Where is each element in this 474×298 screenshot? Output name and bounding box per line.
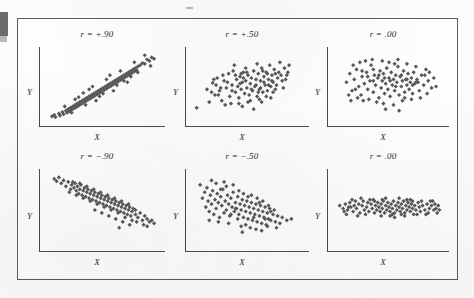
panel-title: r = .00 bbox=[310, 29, 456, 39]
plot-area bbox=[185, 47, 309, 127]
axis-label-y: Y bbox=[315, 87, 320, 97]
axis-label-x: X bbox=[22, 257, 172, 267]
figure-frame: r = +.90 Y X r = +.50 Y X r = .00 Y X bbox=[17, 18, 458, 280]
scatter-points-5 bbox=[327, 169, 449, 252]
scan-edge-artifact-secondary bbox=[0, 36, 7, 42]
plot-area bbox=[39, 169, 165, 252]
scatter-panel-r-minus-90: r = −.90 Y X bbox=[22, 151, 172, 271]
panel-title: r = .00 bbox=[310, 151, 456, 161]
scatter-panel-r-plus-90: r = +.90 Y X bbox=[22, 29, 172, 145]
panel-title: r = −.50 bbox=[168, 151, 316, 161]
plot-area bbox=[185, 169, 309, 252]
axis-label-x: X bbox=[168, 257, 316, 267]
plot-area bbox=[39, 47, 165, 127]
axis-label-y: Y bbox=[173, 211, 178, 221]
axis-label-y: Y bbox=[27, 87, 32, 97]
scatter-panel-r-minus-50: r = −.50 Y X bbox=[168, 151, 316, 271]
scatter-panel-r-zero-top: r = .00 Y X bbox=[310, 29, 456, 145]
panel-title: r = +.50 bbox=[168, 29, 316, 39]
scatter-panel-r-plus-50: r = +.50 Y X bbox=[168, 29, 316, 145]
scatter-panel-r-zero-bottom: r = .00 Y X bbox=[310, 151, 456, 271]
scan-edge-artifact bbox=[0, 12, 8, 36]
scan-smudge bbox=[186, 7, 193, 9]
panel-title: r = −.90 bbox=[22, 151, 172, 161]
scatter-points-1 bbox=[185, 47, 309, 127]
scatter-points-3 bbox=[39, 169, 165, 252]
panel-title: r = +.90 bbox=[22, 29, 172, 39]
plot-area bbox=[327, 169, 449, 252]
plot-area bbox=[327, 47, 449, 127]
scanned-page: r = +.90 Y X r = +.50 Y X r = .00 Y X bbox=[0, 0, 474, 298]
axis-label-x: X bbox=[310, 132, 456, 142]
axis-label-y: Y bbox=[27, 211, 32, 221]
axis-label-x: X bbox=[168, 132, 316, 142]
scatter-points-4 bbox=[185, 169, 309, 252]
axis-label-x: X bbox=[22, 132, 172, 142]
axis-label-y: Y bbox=[173, 87, 178, 97]
axis-label-x: X bbox=[310, 257, 456, 267]
scatter-points-2 bbox=[327, 47, 449, 127]
axis-label-y: Y bbox=[315, 211, 320, 221]
scatter-points-0 bbox=[39, 47, 165, 127]
